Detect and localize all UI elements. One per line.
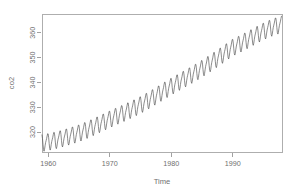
x-tick-label: 1990 <box>225 159 241 168</box>
co2-line-chart: 1960197019801990 320330340350360 Time co… <box>0 0 297 195</box>
x-axis-title: Time <box>154 177 171 186</box>
y-tick-label: 350 <box>28 52 37 64</box>
y-tick-label: 320 <box>28 126 37 138</box>
x-tick-label: 1970 <box>102 159 118 168</box>
y-tick-label: 340 <box>28 76 37 88</box>
chart-container: 1960197019801990 320330340350360 Time co… <box>0 0 297 195</box>
y-tick-label: 360 <box>28 27 37 39</box>
x-tick-label: 1960 <box>40 159 56 168</box>
x-tick-label: 1980 <box>163 159 179 168</box>
y-axis-title: co2 <box>7 77 16 89</box>
y-tick-label: 330 <box>28 101 37 113</box>
